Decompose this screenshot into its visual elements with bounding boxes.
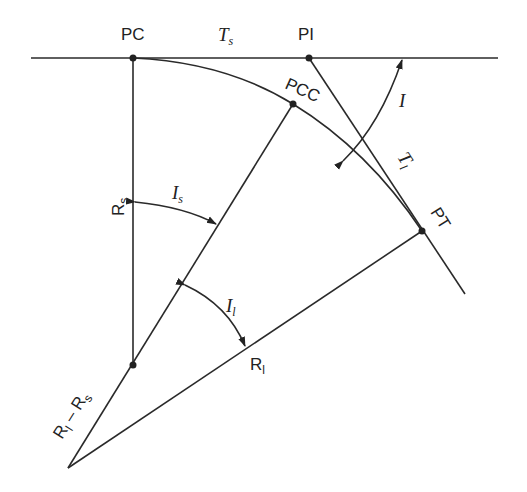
angle-i-arrow: [343, 60, 402, 161]
forward-tangent-line: [309, 58, 465, 294]
angle-il-arrow: [185, 285, 245, 346]
pcc-point: [290, 101, 297, 108]
radius-long-line: [68, 231, 422, 468]
pi-label: PI: [298, 25, 314, 44]
pt-point: [419, 228, 426, 235]
pi-point: [306, 55, 313, 62]
i-label: I: [398, 90, 407, 111]
rs-label: Rs: [109, 198, 131, 216]
angle-is-arrow: [135, 202, 216, 224]
pc-label: PC: [121, 25, 145, 44]
il-label: Il: [225, 295, 236, 319]
tl-label: Tl: [391, 148, 419, 173]
compound-curve-arc: [133, 58, 422, 231]
ts-label: Ts: [218, 24, 234, 48]
is-label: Is: [171, 182, 183, 206]
rl-label: Rl: [250, 355, 265, 377]
center-short-point: [130, 362, 137, 369]
compound-curve-diagram: PC PI PCC PT Ts Tl I Is Il Rs Rl Rl – Rs: [0, 0, 527, 492]
pt-label: PT: [427, 204, 455, 233]
pc-point: [130, 55, 137, 62]
radius-pcc-line: [68, 104, 293, 468]
